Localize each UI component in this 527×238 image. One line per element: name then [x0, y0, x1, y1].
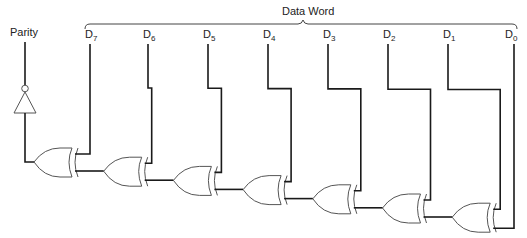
bit-label-d5: D5 — [203, 28, 215, 43]
xor-gate-2 — [104, 157, 148, 186]
xor-gate-5 — [313, 185, 357, 214]
xor-gate-6 — [383, 194, 427, 223]
wire-d0 — [493, 44, 514, 228]
wire-d4 — [268, 44, 291, 182]
wire-d3 — [328, 44, 361, 191]
xor-gate-3 — [173, 166, 217, 195]
wire-d1 — [448, 44, 500, 209]
wire-d6 — [145, 44, 152, 163]
bit-label-d7: D7 — [85, 28, 97, 43]
bit-label-d6: D6 — [143, 28, 155, 43]
bit-label-d3: D3 — [323, 28, 335, 43]
xor-gate-4 — [243, 176, 287, 205]
xor-gate-7 — [452, 203, 496, 232]
bit-label-d1: D1 — [443, 28, 455, 43]
wire-d7 — [75, 44, 90, 154]
data-bit-wires — [75, 44, 514, 228]
wire-d5 — [208, 44, 221, 172]
bit-label-d4: D4 — [263, 28, 275, 43]
data-word-label: Data Word — [282, 5, 334, 17]
xor-gate-1 — [34, 148, 78, 177]
xor-gate-chain — [34, 148, 496, 232]
inverter-not-gate — [14, 42, 36, 162]
parity-label: Parity — [10, 26, 38, 38]
wire-d2 — [388, 44, 431, 200]
bit-label-d2: D2 — [383, 28, 395, 43]
bit-label-d0: D0 — [505, 28, 517, 43]
